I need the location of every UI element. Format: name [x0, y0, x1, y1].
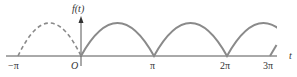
solid-rectified-sine-curve: [81, 23, 297, 56]
chart-canvas: [0, 0, 297, 77]
x-axis-label: t: [289, 51, 292, 61]
y-axis-label: f(t): [72, 4, 84, 14]
tick-label-3pi: 3π: [263, 61, 273, 71]
y-axis-arrow-icon: [79, 16, 84, 23]
tick-label-neg-pi: −π: [8, 61, 19, 71]
curve-continuation: [270, 45, 277, 56]
tick-label-2pi: 2π: [220, 61, 230, 71]
origin-label: O: [71, 61, 78, 71]
dashed-sine-arc: [18, 23, 81, 56]
tick-label-pi: π: [150, 61, 155, 71]
